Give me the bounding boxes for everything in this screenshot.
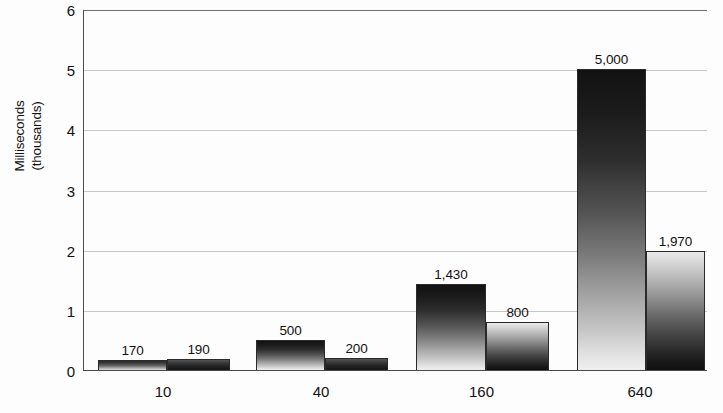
bar-value-label-series-2-40: 200: [345, 341, 367, 356]
bar-value-label-series-2-160: 800: [506, 305, 528, 320]
y-tick-label-6: 6: [47, 2, 75, 19]
bar-series-1-40: [256, 340, 325, 370]
plot-area: 1701905002001,4308005,0001,970: [83, 10, 707, 371]
bar-chart: Milliseconds (thousands) 0123456 1701905…: [0, 0, 723, 413]
y-axis-title-line-1: Milliseconds: [11, 56, 28, 216]
gridline-6: [84, 10, 707, 11]
bar-value-label-series-1-40: 500: [279, 323, 301, 338]
bar-series-2-40: [325, 358, 388, 370]
y-axis-tick-labels: 0123456: [43, 0, 75, 413]
bar-series-1-640: [577, 69, 646, 370]
y-tick-label-5: 5: [47, 62, 75, 79]
y-tick-label-3: 3: [47, 182, 75, 199]
y-tick-label-2: 2: [47, 242, 75, 259]
bar-series-2-160: [486, 322, 549, 370]
bar-series-2-640: [646, 251, 705, 370]
y-tick-label-1: 1: [47, 302, 75, 319]
y-tick-label-0: 0: [47, 363, 75, 380]
bar-value-label-series-2-10: 190: [187, 342, 209, 357]
bar-series-1-160: [416, 284, 486, 370]
bar-series-1-10: [98, 360, 167, 370]
bar-series-2-10: [167, 359, 230, 370]
x-tick-label-10: 10: [155, 383, 172, 400]
bar-value-label-series-1-10: 170: [121, 343, 143, 358]
bar-value-label-series-1-160: 1,430: [434, 267, 467, 282]
x-tick-label-40: 40: [313, 383, 330, 400]
x-tick-label-640: 640: [627, 383, 652, 400]
y-tick-label-4: 4: [47, 122, 75, 139]
bar-value-label-series-2-640: 1,970: [659, 234, 692, 249]
bar-value-label-series-1-640: 5,000: [595, 52, 628, 67]
x-tick-label-160: 160: [469, 383, 494, 400]
